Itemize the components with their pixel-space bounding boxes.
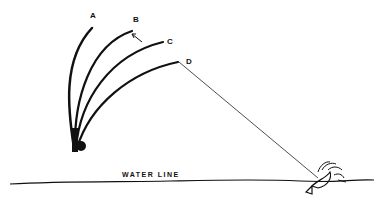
arrow-b-icon [132, 34, 142, 42]
fishing-line [179, 62, 318, 178]
label-d: D [186, 57, 192, 66]
label-b: B [133, 15, 139, 24]
rod-curve-c [76, 42, 163, 148]
fish-icon [306, 172, 331, 194]
label-c: C [167, 37, 173, 46]
label-a: A [90, 11, 96, 20]
fishing-rod-diagram: A B C D WATER LINE [0, 0, 386, 204]
rod-curve-d [77, 62, 178, 148]
reel-icon [76, 141, 86, 151]
water-line-label: WATER LINE [122, 171, 180, 178]
